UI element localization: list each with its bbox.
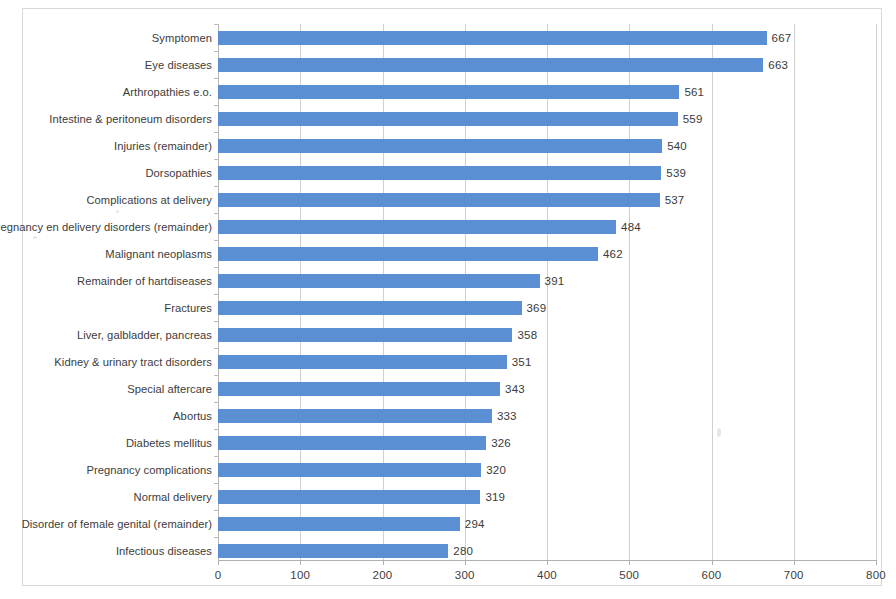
bar-value-label: 540 xyxy=(667,140,687,152)
bar-row: Fractures369 xyxy=(218,294,876,321)
x-tick-label-700: 700 xyxy=(764,569,824,581)
bar[interactable] xyxy=(218,31,767,45)
category-label: Dorsopathies xyxy=(145,167,212,179)
bar-value-label: 539 xyxy=(666,167,686,179)
category-label: Disorder of female genital (remainder) xyxy=(22,518,212,530)
plot-area: Symptomen667Eye diseases663Arthropathies… xyxy=(218,24,876,560)
x-tick-mark-800 xyxy=(876,560,877,565)
y-tick-mark xyxy=(214,159,218,160)
bar-value-label: 663 xyxy=(768,59,788,71)
bar-value-label: 391 xyxy=(545,275,565,287)
bar[interactable] xyxy=(218,382,500,396)
category-label: Complications at delivery xyxy=(86,194,212,206)
bar-row: Remainder of hartdiseases391 xyxy=(218,267,876,294)
bar[interactable] xyxy=(218,436,486,450)
category-label: Arthropathies e.o. xyxy=(123,86,212,98)
x-tick-mark-700 xyxy=(794,560,795,565)
bar-row: Arthropathies e.o.561 xyxy=(218,78,876,105)
y-tick-mark xyxy=(214,456,218,457)
bar-row: Diabetes mellitus326 xyxy=(218,429,876,456)
x-tick-mark-400 xyxy=(547,560,548,565)
bar[interactable] xyxy=(218,328,512,342)
bar[interactable] xyxy=(218,112,678,126)
y-tick-mark xyxy=(214,537,218,538)
y-tick-mark xyxy=(214,348,218,349)
y-tick-mark xyxy=(214,213,218,214)
bar[interactable] xyxy=(218,517,460,531)
bar-value-label: 358 xyxy=(517,329,537,341)
y-tick-mark xyxy=(214,51,218,52)
category-label: Abortus xyxy=(173,410,212,422)
category-label: Intestine & peritoneum disorders xyxy=(49,113,212,125)
category-label: Fractures xyxy=(164,302,212,314)
y-tick-mark xyxy=(214,240,218,241)
bar-row: Dorsopathies539 xyxy=(218,159,876,186)
bar-value-label: 333 xyxy=(497,410,517,422)
bar-row: Pregnancy en delivery disorders (remaind… xyxy=(218,213,876,240)
bar-row: Abortus333 xyxy=(218,402,876,429)
y-tick-mark xyxy=(214,483,218,484)
category-label: Malignant neoplasms xyxy=(105,248,212,260)
bar[interactable] xyxy=(218,166,661,180)
bar-row: Disorder of female genital (remainder)29… xyxy=(218,510,876,537)
bar-value-label: 343 xyxy=(505,383,525,395)
bar-chart: Symptomen667Eye diseases663Arthropathies… xyxy=(0,0,896,599)
x-tick-label-100: 100 xyxy=(270,569,330,581)
y-tick-mark xyxy=(214,429,218,430)
bar[interactable] xyxy=(218,193,660,207)
category-label: Eye diseases xyxy=(145,59,212,71)
bar-row: Special aftercare343 xyxy=(218,375,876,402)
category-label: Diabetes mellitus xyxy=(126,437,212,449)
bar[interactable] xyxy=(218,544,448,558)
bar[interactable] xyxy=(218,139,662,153)
x-tick-label-300: 300 xyxy=(435,569,495,581)
y-tick-mark xyxy=(214,375,218,376)
bar-value-label: 369 xyxy=(527,302,547,314)
scan-speck xyxy=(116,210,119,213)
bar[interactable] xyxy=(218,463,481,477)
x-tick-label-0: 0 xyxy=(188,569,248,581)
bar-row: Injuries (remainder)540 xyxy=(218,132,876,159)
bar-value-label: 326 xyxy=(491,437,511,449)
bar[interactable] xyxy=(218,274,540,288)
bar[interactable] xyxy=(218,355,507,369)
category-label: Kidney & urinary tract disorders xyxy=(54,356,212,368)
bar-value-label: 484 xyxy=(621,221,641,233)
bar-value-label: 537 xyxy=(665,194,685,206)
bar[interactable] xyxy=(218,58,763,72)
category-label: Liver, galbladder, pancreas xyxy=(77,329,212,341)
y-tick-mark xyxy=(214,267,218,268)
bar-value-label: 559 xyxy=(683,113,703,125)
bar-value-label: 462 xyxy=(603,248,623,260)
bar-value-label: 667 xyxy=(772,32,792,44)
x-tick-label-800: 800 xyxy=(846,569,896,581)
bar[interactable] xyxy=(218,490,480,504)
category-label: Special aftercare xyxy=(127,383,212,395)
bar-value-label: 294 xyxy=(465,518,485,530)
bar-row: Eye diseases663 xyxy=(218,51,876,78)
bar[interactable] xyxy=(218,220,616,234)
bar-value-label: 319 xyxy=(485,491,505,503)
category-label: Pregnancy complications xyxy=(86,464,212,476)
bar[interactable] xyxy=(218,85,679,99)
category-label: Symptomen xyxy=(152,32,212,44)
bar-row: Complications at delivery537 xyxy=(218,186,876,213)
bar-value-label: 561 xyxy=(684,86,704,98)
bar-row: Malignant neoplasms462 xyxy=(218,240,876,267)
bar[interactable] xyxy=(218,409,492,423)
bar-value-label: 320 xyxy=(486,464,506,476)
y-tick-mark xyxy=(214,132,218,133)
x-tick-mark-500 xyxy=(629,560,630,565)
bar-row: Symptomen667 xyxy=(218,24,876,51)
x-tick-label-500: 500 xyxy=(599,569,659,581)
bar[interactable] xyxy=(218,301,522,315)
y-tick-mark xyxy=(214,402,218,403)
bar[interactable] xyxy=(218,247,598,261)
bar-row: Pregnancy complications320 xyxy=(218,456,876,483)
x-tick-mark-300 xyxy=(465,560,466,565)
bar-row: Kidney & urinary tract disorders351 xyxy=(218,348,876,375)
y-tick-mark xyxy=(214,510,218,511)
scan-speck xyxy=(33,236,37,239)
x-tick-label-400: 400 xyxy=(517,569,577,581)
gridline-800 xyxy=(876,24,877,560)
